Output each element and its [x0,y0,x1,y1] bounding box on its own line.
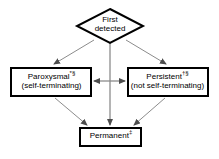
node-permanent-shape [80,128,141,146]
edge-first-detected-to-persistent [126,40,166,64]
node-persistent-shape [128,68,208,96]
edge-persistent-to-permanent [134,98,165,125]
node-paroxysmal-shape [11,68,91,96]
edge-first-detected-to-paroxysmal [54,40,94,64]
edge-paroxysmal-to-permanent [55,98,87,125]
flowchart-canvas [0,0,219,159]
flowchart-figure: First detected Paroxysmal*§ (self-termin… [0,0,219,159]
node-first-detected-shape [77,9,143,43]
